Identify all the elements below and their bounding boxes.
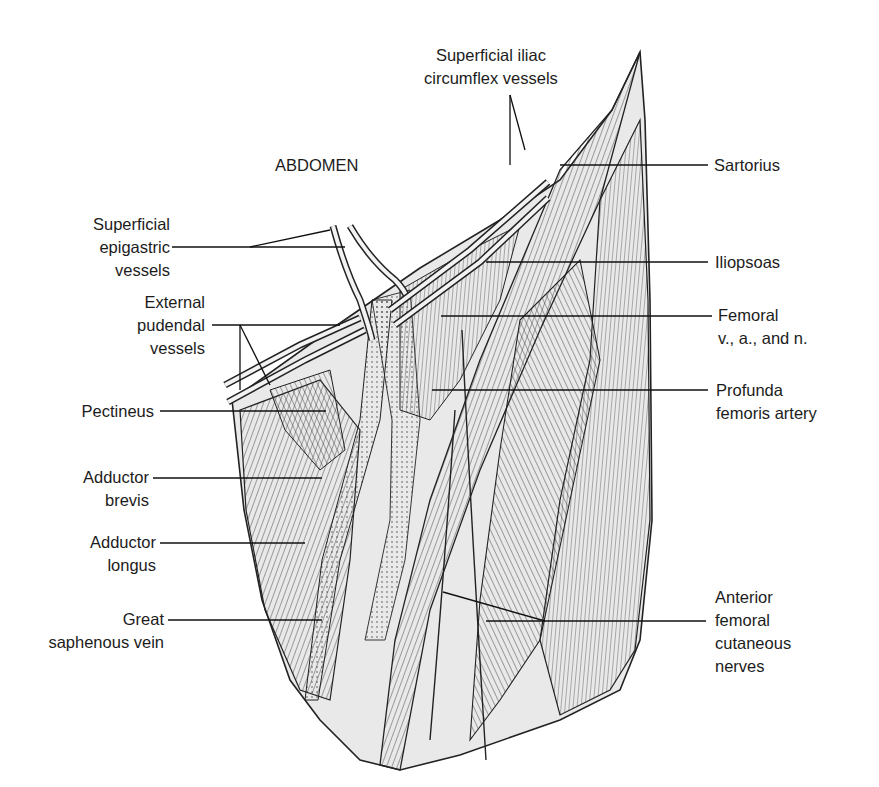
label-line: Anterior (715, 586, 791, 609)
label-line: Great (48, 608, 164, 631)
label-line: nerves (715, 655, 791, 678)
label-iliopsoas: Iliopsoas (715, 251, 780, 274)
label-line: vessels (93, 259, 170, 282)
label-line: longus (90, 554, 156, 577)
label-line: pudendal (137, 314, 205, 337)
label-line: Superficial (93, 213, 170, 236)
label-line: circumflex vessels (424, 67, 558, 90)
label-line: Adductor (90, 531, 156, 554)
label-line: saphenous vein (48, 631, 164, 654)
label-great-saphenous-vein: Great saphenous vein (48, 608, 164, 654)
label-femoral-vessels-nerve: Femoral v., a., and n. (718, 304, 808, 350)
label-line: femoris artery (716, 402, 817, 425)
label-line: Profunda (716, 379, 817, 402)
label-line: Femoral (718, 304, 808, 327)
label-superficial-epigastric-vessels: Superficial epigastric vessels (93, 213, 170, 282)
label-line: Adductor (83, 466, 149, 489)
label-anterior-femoral-cutaneous-nerves: Anterior femoral cutaneous nerves (715, 586, 791, 678)
label-superficial-iliac-circumflex-vessels: Superficial iliac circumflex vessels (424, 44, 558, 90)
label-line: vessels (137, 337, 205, 360)
label-pectineus: Pectineus (82, 400, 154, 423)
label-adductor-longus: Adductor longus (90, 531, 156, 577)
label-adductor-brevis: Adductor brevis (83, 466, 149, 512)
label-line: cutaneous (715, 632, 791, 655)
label-external-pudendal-vessels: External pudendal vessels (137, 291, 205, 360)
label-line: Sartorius (714, 154, 780, 177)
label-line: epigastric (93, 236, 170, 259)
label-sartorius: Sartorius (714, 154, 780, 177)
abdomen-text: ABDOMEN (275, 154, 358, 177)
label-abdomen: ABDOMEN (275, 154, 358, 177)
label-line: Iliopsoas (715, 251, 780, 274)
label-line: Pectineus (82, 400, 154, 423)
label-line: Superficial iliac (424, 44, 558, 67)
label-line: brevis (83, 489, 149, 512)
label-line: v., a., and n. (718, 327, 808, 350)
label-line: femoral (715, 609, 791, 632)
label-profunda-femoris-artery: Profunda femoris artery (716, 379, 817, 425)
label-line: External (137, 291, 205, 314)
